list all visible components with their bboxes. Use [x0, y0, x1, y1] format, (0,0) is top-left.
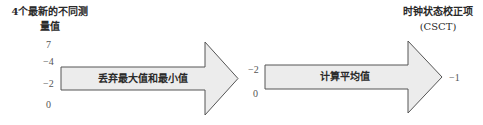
input-title-line1: 4个最新的不同测: [2, 6, 98, 18]
output-title-line1: 时钟状态校正项: [395, 6, 481, 18]
intermediate-value-1: −2: [248, 64, 259, 76]
step2-label: 计算平均值: [320, 71, 370, 83]
output-value: −1: [449, 72, 460, 84]
input-value-3: −2: [43, 78, 54, 90]
input-value-1: 7: [46, 39, 51, 51]
input-value-4: 0: [46, 99, 51, 111]
output-title: 时钟状态校正项 (CSCT): [395, 6, 481, 33]
input-title-line2: 量值: [2, 21, 98, 33]
input-title: 4个最新的不同测 量值: [2, 6, 98, 33]
output-title-line2: (CSCT): [395, 21, 481, 33]
intermediate-value-2: 0: [253, 88, 258, 100]
step1-label: 丢弃最大值和最小值: [98, 73, 188, 85]
input-value-2: −4: [43, 56, 54, 68]
